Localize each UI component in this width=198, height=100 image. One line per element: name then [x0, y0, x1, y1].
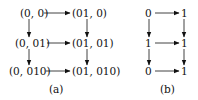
- node-a-r2c0: (0, 010): [9, 65, 51, 77]
- node-b-r1c0: 1: [145, 37, 152, 49]
- caption-a: (a): [49, 83, 63, 95]
- node-b-r0c1: 1: [181, 7, 188, 19]
- node-b-r1c1: 1: [181, 37, 188, 49]
- caption-b: (b): [160, 83, 175, 95]
- node-b-r2c0: 0: [145, 65, 152, 77]
- node-a-r2c1: (01, 010): [72, 65, 120, 77]
- node-a-r0c1: (01, 0): [72, 7, 107, 19]
- node-a-r1c0: (0, 01): [15, 37, 50, 49]
- node-b-r0c0: 0: [145, 7, 152, 19]
- node-a-r1c1: (01, 01): [72, 37, 114, 49]
- node-a-r0c0: (0, 0): [20, 7, 48, 19]
- node-b-r2c1: 1: [181, 65, 188, 77]
